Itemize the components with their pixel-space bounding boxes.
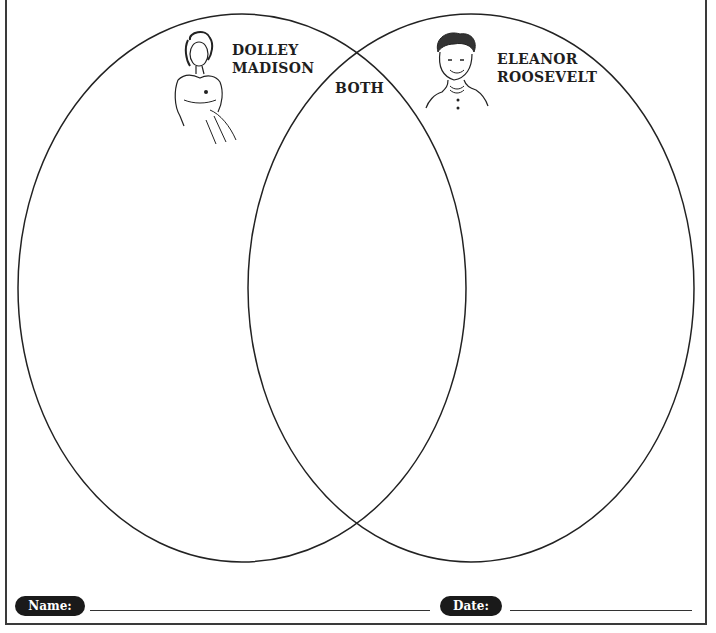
left-label-line1: DOLLEY bbox=[232, 41, 314, 59]
eleanor-roosevelt-portrait-icon bbox=[424, 32, 492, 112]
right-label-line1: ELEANOR bbox=[497, 50, 597, 68]
left-circle-dolley-madison[interactable] bbox=[18, 14, 466, 562]
name-label-badge: Name: bbox=[15, 596, 85, 616]
date-input-line[interactable] bbox=[510, 610, 692, 611]
right-label-line2: ROOSEVELT bbox=[497, 68, 597, 86]
right-circle-label: ELEANOR ROOSEVELT bbox=[497, 50, 597, 86]
name-input-line[interactable] bbox=[90, 610, 430, 611]
overlap-label: BOTH bbox=[335, 79, 384, 97]
left-label-line2: MADISON bbox=[232, 59, 314, 77]
left-circle-label: DOLLEY MADISON bbox=[232, 41, 314, 77]
date-label-badge: Date: bbox=[440, 596, 502, 616]
